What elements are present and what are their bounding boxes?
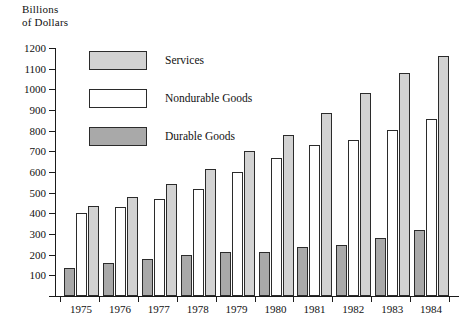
- y-axis-tick: [49, 296, 55, 297]
- x-axis-tick: [371, 297, 372, 302]
- bar-services: [244, 151, 255, 296]
- bar-services: [321, 113, 332, 296]
- y-axis-line: [55, 48, 56, 297]
- x-axis-label: 1982: [342, 303, 364, 315]
- bar-nondur: [309, 145, 320, 296]
- bar-durable: [181, 255, 192, 296]
- bar-nondur: [348, 140, 359, 296]
- bar-group: [414, 48, 449, 296]
- x-axis-label: 1984: [420, 303, 442, 315]
- y-axis-tick: [49, 234, 55, 235]
- x-axis-tick: [410, 297, 411, 302]
- legend-item-durable: Durable Goods: [89, 126, 235, 146]
- y-axis-label: 800: [30, 125, 47, 137]
- bar-durable: [64, 268, 75, 296]
- bar-services: [438, 56, 449, 296]
- y-axis-tick: [49, 48, 55, 49]
- bar-durable: [297, 247, 308, 296]
- bar-durable: [336, 245, 347, 296]
- bar-nondur: [76, 213, 87, 296]
- y-axis-tick: [49, 172, 55, 173]
- bar-chart-figure: Billions of Dollars 10020030040050060070…: [0, 0, 467, 327]
- bar-group: [259, 48, 294, 296]
- y-axis-label: 1100: [24, 63, 46, 75]
- x-axis-tick: [138, 297, 139, 302]
- bar-nondur: [154, 199, 165, 296]
- bar-durable: [414, 230, 425, 296]
- y-axis-label: 600: [30, 166, 47, 178]
- bar-group: [181, 48, 216, 296]
- bar-services: [166, 184, 177, 296]
- y-axis-tick: [49, 151, 55, 152]
- x-axis-label: 1977: [148, 303, 170, 315]
- x-axis-label: 1976: [109, 303, 131, 315]
- y-axis-label: 700: [30, 145, 47, 157]
- bar-group: [103, 48, 138, 296]
- bar-durable: [375, 238, 386, 296]
- bar-durable: [103, 263, 114, 296]
- x-axis-line: [55, 296, 459, 297]
- y-axis-tick: [49, 110, 55, 111]
- y-axis-tick: [49, 193, 55, 194]
- x-axis-tick: [99, 297, 100, 302]
- bar-services: [88, 206, 99, 296]
- bar-nondur: [115, 207, 126, 296]
- bar-durable: [220, 252, 231, 296]
- y-axis-tick: [49, 89, 55, 90]
- legend-item-services: Services: [89, 50, 204, 70]
- bar-group: [142, 48, 177, 296]
- legend-swatch-services: [89, 51, 147, 70]
- x-axis-tick: [255, 297, 256, 302]
- x-axis-tick: [177, 297, 178, 302]
- y-axis-tick: [49, 213, 55, 214]
- y-axis-tick: [49, 69, 55, 70]
- y-axis-label: 100: [30, 269, 47, 281]
- axis-title: Billions of Dollars: [22, 3, 68, 29]
- bar-nondur: [387, 130, 398, 296]
- x-axis-tick: [60, 297, 61, 302]
- x-axis-label: 1979: [226, 303, 248, 315]
- legend-label: Durable Goods: [165, 130, 235, 142]
- legend-swatch-nondur: [89, 89, 147, 108]
- legend-label: Nondurable Goods: [165, 92, 252, 104]
- bar-group: [220, 48, 255, 296]
- bar-group: [375, 48, 410, 296]
- bar-services: [399, 73, 410, 296]
- y-axis-tick: [49, 275, 55, 276]
- bar-services: [205, 169, 216, 296]
- bar-services: [283, 135, 294, 296]
- y-axis-tick: [49, 255, 55, 256]
- x-axis-tick: [293, 297, 294, 302]
- bar-group: [336, 48, 371, 296]
- bar-group: [64, 48, 99, 296]
- x-axis-label: 1980: [265, 303, 287, 315]
- bar-nondur: [426, 119, 437, 296]
- x-axis-label: 1983: [381, 303, 403, 315]
- y-axis-label: 900: [30, 104, 47, 116]
- bar-services: [127, 197, 138, 296]
- x-axis-tick: [216, 297, 217, 302]
- plot-area: 100200300400500600700800900100011001200 …: [55, 48, 459, 297]
- legend-item-nondur: Nondurable Goods: [89, 88, 252, 108]
- y-axis-label: 300: [30, 228, 47, 240]
- bar-nondur: [271, 158, 282, 296]
- bar-durable: [259, 252, 270, 296]
- y-axis-label: 1200: [24, 42, 46, 54]
- bar-durable: [142, 259, 153, 296]
- bar-group: [297, 48, 332, 296]
- y-axis-label: 1000: [24, 83, 46, 95]
- y-axis-label: 400: [30, 207, 47, 219]
- bar-nondur: [232, 172, 243, 296]
- x-axis-tick: [449, 297, 450, 302]
- legend-swatch-durable: [89, 127, 147, 146]
- y-axis-tick: [49, 131, 55, 132]
- x-axis-label: 1981: [303, 303, 325, 315]
- x-axis-tick: [332, 297, 333, 302]
- bar-nondur: [193, 189, 204, 296]
- bar-services: [360, 93, 371, 296]
- y-axis-label: 200: [30, 249, 47, 261]
- x-axis-label: 1978: [187, 303, 209, 315]
- legend-label: Services: [165, 54, 204, 66]
- y-axis-label: 500: [30, 187, 47, 199]
- x-axis-label: 1975: [70, 303, 92, 315]
